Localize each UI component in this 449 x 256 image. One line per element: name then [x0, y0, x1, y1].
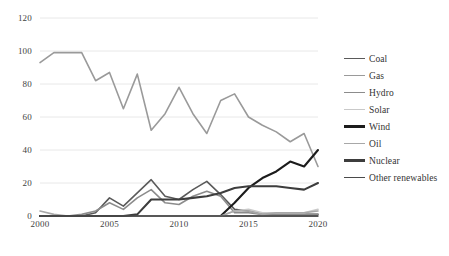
series-line-wind	[40, 150, 318, 216]
legend-item-hydro[interactable]: Hydro	[344, 84, 449, 101]
legend-item-nuclear[interactable]: Nuclear	[344, 152, 449, 169]
legend-swatch-icon	[344, 92, 365, 94]
series-line-gas	[40, 53, 318, 167]
series-line-nuclear	[40, 183, 318, 216]
legend-label: Other renewables	[369, 173, 437, 183]
legend-swatch-icon	[344, 177, 365, 179]
legend-label: Oil	[369, 139, 381, 149]
legend-label: Solar	[369, 105, 390, 115]
chart-legend: CoalGasHydroSolarWindOilNuclearOther ren…	[344, 50, 449, 186]
legend-swatch-icon	[344, 159, 365, 161]
series-lines	[40, 18, 318, 216]
legend-label: Nuclear	[369, 156, 400, 166]
legend-label: Gas	[369, 71, 384, 81]
legend-item-solar[interactable]: Solar	[344, 101, 449, 118]
line-chart: 020406080100120 20002005201020152020 Coa…	[0, 0, 449, 256]
legend-swatch-icon	[344, 75, 365, 77]
legend-swatch-icon	[344, 109, 365, 111]
y-tick-label: 100	[4, 47, 32, 56]
x-tick-label: 2010	[159, 220, 199, 229]
legend-swatch-icon	[344, 58, 365, 60]
series-line-coal	[40, 180, 318, 216]
legend-item-coal[interactable]: Coal	[344, 50, 449, 67]
legend-swatch-icon	[344, 125, 365, 127]
x-tick-label: 2005	[90, 220, 130, 229]
x-tick-label: 2020	[298, 220, 338, 229]
legend-label: Coal	[369, 54, 387, 64]
legend-item-gas[interactable]: Gas	[344, 67, 449, 84]
legend-item-oil[interactable]: Oil	[344, 135, 449, 152]
plot-area	[40, 18, 318, 216]
legend-item-other-renewables[interactable]: Other renewables	[344, 169, 449, 186]
legend-label: Hydro	[369, 88, 394, 98]
x-tick-label: 2015	[229, 220, 269, 229]
y-tick-label: 60	[4, 113, 32, 122]
legend-label: Wind	[369, 122, 390, 132]
legend-swatch-icon	[344, 143, 365, 145]
y-tick-label: 80	[4, 80, 32, 89]
x-tick-label: 2000	[20, 220, 60, 229]
y-tick-label: 40	[4, 146, 32, 155]
y-tick-label: 20	[4, 179, 32, 188]
legend-item-wind[interactable]: Wind	[344, 118, 449, 135]
y-tick-label: 120	[4, 14, 32, 23]
